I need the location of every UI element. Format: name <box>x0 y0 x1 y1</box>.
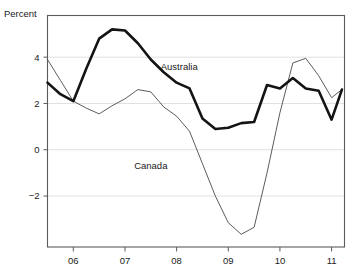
series-label-canada: Canada <box>134 160 168 171</box>
series-label-australia: Australia <box>161 61 199 72</box>
x-axis-labels: 060708091011 <box>68 255 336 266</box>
y-tick-label: 2 <box>34 98 39 109</box>
x-axis-ticks <box>73 247 331 252</box>
x-tick-label: 09 <box>223 255 234 266</box>
y-tick-label: −2 <box>29 190 40 201</box>
y-tick-label: 4 <box>34 52 39 63</box>
line-chart: Percent 420−2 060708091011 AustraliaCana… <box>0 0 358 277</box>
y-axis-labels: 420−2 <box>29 52 48 202</box>
chart-container: Percent 420−2 060708091011 AustraliaCana… <box>0 0 358 277</box>
x-tick-label: 11 <box>327 255 337 266</box>
y-tick-label: 0 <box>34 144 39 155</box>
x-tick-label: 07 <box>120 255 131 266</box>
x-tick-label: 10 <box>275 255 286 266</box>
gridlines <box>48 57 345 196</box>
x-tick-label: 08 <box>171 255 182 266</box>
series-line-australia <box>48 29 342 129</box>
series-line-canada <box>48 58 342 234</box>
series-annotations: AustraliaCanada <box>134 61 198 172</box>
y-axis-title: Percent <box>4 8 37 19</box>
plot-frame <box>48 16 345 248</box>
x-tick-label: 06 <box>68 255 79 266</box>
